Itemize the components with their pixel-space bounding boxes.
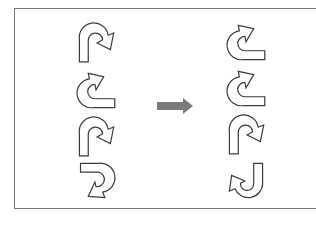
left-arrow-2 — [76, 70, 116, 112]
right-arrow-4 — [226, 160, 266, 202]
transform-arrow — [157, 98, 193, 114]
left-arrow-3 — [76, 116, 116, 158]
u-turn-arrow-icon — [226, 160, 266, 202]
u-turn-arrow-icon — [226, 68, 266, 110]
right-arrow-3 — [226, 114, 266, 156]
right-arrow-2 — [226, 68, 266, 110]
left-arrow-1 — [76, 22, 116, 64]
right-arrow-1 — [226, 22, 266, 64]
u-turn-arrow-icon — [76, 116, 116, 158]
u-turn-arrow-icon — [226, 114, 266, 156]
right-arrow-icon — [157, 98, 193, 114]
left-arrow-4 — [76, 160, 116, 202]
u-turn-arrow-icon — [76, 160, 116, 202]
u-turn-arrow-icon — [226, 22, 266, 64]
u-turn-arrow-icon — [76, 22, 116, 64]
u-turn-arrow-icon — [76, 70, 116, 112]
